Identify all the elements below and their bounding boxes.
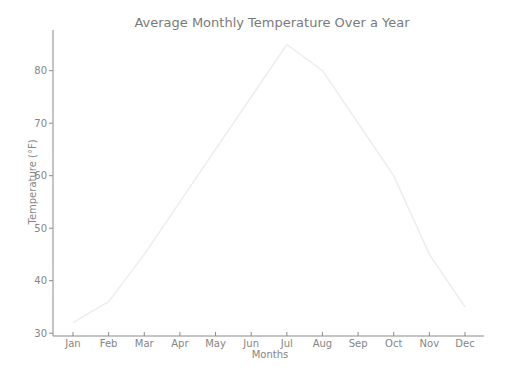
x-tick-label: Oct bbox=[385, 338, 402, 349]
chart-title: Average Monthly Temperature Over a Year bbox=[134, 15, 410, 30]
line-chart: Average Monthly Temperature Over a Year … bbox=[0, 0, 508, 379]
x-tick-label: Dec bbox=[455, 338, 474, 349]
y-axis-label: Temperature (°F) bbox=[27, 139, 38, 225]
x-tick-label: Nov bbox=[420, 338, 440, 349]
x-tick-label: Jan bbox=[64, 338, 80, 349]
x-tick-label: Jun bbox=[242, 338, 259, 349]
temperature-line bbox=[73, 45, 465, 323]
x-axis-label: Months bbox=[252, 349, 289, 360]
x-tick-label: Jul bbox=[280, 338, 293, 349]
y-tick-label: 30 bbox=[34, 328, 47, 339]
y-tick-label: 40 bbox=[34, 275, 47, 286]
x-tick-label: Mar bbox=[135, 338, 155, 349]
x-tick-label: Feb bbox=[100, 338, 118, 349]
y-tick-label: 80 bbox=[34, 65, 47, 76]
x-tick-label: Aug bbox=[313, 338, 333, 349]
x-tick-label: Sep bbox=[349, 338, 368, 349]
y-tick-label: 70 bbox=[34, 118, 47, 129]
x-tick-label: May bbox=[205, 338, 226, 349]
x-axis-ticks: JanFebMarAprMayJunJulAugSepOctNovDec bbox=[64, 332, 474, 349]
x-tick-label: Apr bbox=[171, 338, 189, 349]
chart-svg: Average Monthly Temperature Over a Year … bbox=[0, 0, 508, 379]
